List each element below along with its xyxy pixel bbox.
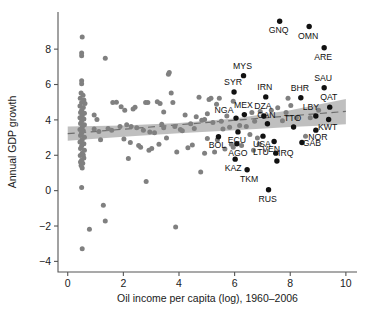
data-point-label: IRQ bbox=[278, 148, 294, 158]
data-point-labeled bbox=[234, 141, 239, 146]
scatter-plot-figure: GNQOMNAREMYSSAUSYRIRNBHRQATMEXNGADZALBYC… bbox=[0, 0, 370, 309]
data-point-unlabeled bbox=[202, 117, 207, 122]
data-point-unlabeled bbox=[275, 105, 280, 110]
data-point-unlabeled bbox=[133, 105, 138, 110]
data-point-unlabeled bbox=[173, 224, 178, 229]
data-point-unlabeled bbox=[134, 125, 139, 130]
data-point-unlabeled bbox=[183, 112, 188, 117]
data-point-unlabeled bbox=[217, 96, 222, 101]
data-point-unlabeled bbox=[288, 103, 293, 108]
data-point-labeled bbox=[242, 112, 247, 117]
data-point-unlabeled bbox=[210, 120, 215, 125]
y-axis-title: Annual GDP growth bbox=[6, 96, 18, 189]
data-point-unlabeled bbox=[126, 156, 131, 161]
data-point-labeled bbox=[232, 156, 237, 161]
data-point-label: MYS bbox=[233, 61, 252, 71]
data-point-unlabeled bbox=[114, 100, 119, 105]
data-point-unlabeled bbox=[144, 179, 149, 184]
data-point-labeled bbox=[271, 139, 276, 144]
data-point-unlabeled bbox=[198, 170, 203, 175]
y-tick-label: 4 bbox=[45, 114, 51, 126]
data-point-unlabeled bbox=[158, 101, 163, 106]
data-point-unlabeled bbox=[147, 129, 152, 134]
data-point-labeled bbox=[313, 113, 318, 118]
data-point-label: AGO bbox=[228, 148, 248, 158]
data-point-unlabeled bbox=[161, 109, 166, 114]
x-axis-title: Oil income per capita (log), 1960–2006 bbox=[117, 292, 298, 304]
data-point-unlabeled bbox=[80, 166, 85, 171]
y-tick-label: −2 bbox=[39, 220, 51, 232]
data-point-labeled bbox=[235, 129, 240, 134]
data-point-label: RUS bbox=[258, 194, 277, 204]
data-point-labeled bbox=[321, 45, 326, 50]
data-point-label: NGA bbox=[215, 105, 234, 115]
data-point-unlabeled bbox=[188, 121, 193, 126]
data-point-unlabeled bbox=[122, 108, 127, 113]
data-point-label: TTO bbox=[284, 113, 301, 123]
data-point-unlabeled bbox=[202, 151, 207, 156]
data-point-unlabeled bbox=[118, 124, 123, 129]
data-point-unlabeled bbox=[247, 132, 252, 137]
data-point-unlabeled bbox=[192, 126, 197, 131]
data-point-labeled bbox=[265, 121, 270, 126]
data-point-labeled bbox=[306, 24, 311, 29]
data-point-labeled bbox=[277, 19, 282, 24]
data-point-unlabeled bbox=[172, 124, 177, 129]
data-point-label: ARE bbox=[314, 52, 332, 62]
data-point-unlabeled bbox=[152, 130, 157, 135]
data-point-label: OMN bbox=[298, 31, 318, 41]
x-tick-label: 8 bbox=[287, 277, 293, 289]
data-point-label: GNQ bbox=[269, 25, 289, 35]
data-point-unlabeled bbox=[92, 127, 97, 132]
data-point-unlabeled bbox=[98, 137, 103, 142]
y-tick-label: 6 bbox=[45, 78, 51, 90]
data-point-unlabeled bbox=[101, 203, 106, 208]
data-point-unlabeled bbox=[194, 114, 199, 119]
data-point-unlabeled bbox=[87, 227, 92, 232]
data-point-labeled bbox=[260, 133, 265, 138]
data-point-unlabeled bbox=[145, 100, 150, 105]
data-point-labeled bbox=[231, 89, 236, 94]
data-point-unlabeled bbox=[92, 112, 97, 117]
data-point-unlabeled bbox=[208, 96, 213, 101]
x-tick-label: 0 bbox=[65, 277, 71, 289]
data-point-label: TKM bbox=[240, 174, 258, 184]
data-point-unlabeled bbox=[164, 135, 169, 140]
y-tick-label: 2 bbox=[45, 149, 51, 161]
plot-canvas: GNQOMNAREMYSSAUSYRIRNBHRQATMEXNGADZALBYC… bbox=[0, 0, 370, 309]
data-point-unlabeled bbox=[78, 159, 83, 164]
data-point-unlabeled bbox=[169, 91, 174, 96]
x-tick-label: 2 bbox=[120, 277, 126, 289]
data-point-unlabeled bbox=[286, 96, 291, 101]
data-point-unlabeled bbox=[174, 150, 179, 155]
data-point-unlabeled bbox=[81, 152, 86, 157]
data-point-label: KWT bbox=[318, 122, 338, 132]
x-tick-label: 6 bbox=[232, 277, 238, 289]
data-point-label: GAB bbox=[303, 138, 322, 148]
data-point-unlabeled bbox=[219, 119, 224, 124]
data-point-unlabeled bbox=[79, 81, 84, 86]
data-point-label: LTU bbox=[253, 147, 269, 157]
data-point-unlabeled bbox=[79, 53, 84, 58]
data-point-labeled bbox=[291, 124, 296, 129]
y-tick-label: −4 bbox=[39, 255, 51, 267]
data-point-label: SYR bbox=[224, 77, 242, 87]
data-point-labeled bbox=[233, 115, 238, 120]
data-point-label: QAT bbox=[320, 92, 338, 102]
data-point-unlabeled bbox=[141, 128, 146, 133]
data-point-unlabeled bbox=[94, 117, 99, 122]
data-point-unlabeled bbox=[146, 148, 151, 153]
data-point-unlabeled bbox=[138, 145, 143, 150]
data-point-labeled bbox=[274, 158, 279, 163]
data-point-unlabeled bbox=[156, 142, 161, 147]
data-point-unlabeled bbox=[227, 125, 232, 130]
x-tick-label: 4 bbox=[176, 277, 182, 289]
data-point-unlabeled bbox=[190, 143, 195, 148]
data-point-label: MEX bbox=[234, 100, 253, 110]
data-point-unlabeled bbox=[244, 124, 249, 129]
data-point-unlabeled bbox=[170, 100, 175, 105]
data-point-labeled bbox=[298, 95, 303, 100]
data-point-label: KAZ bbox=[225, 163, 243, 173]
data-point-label: CAN bbox=[257, 110, 275, 120]
data-point-unlabeled bbox=[205, 111, 210, 116]
